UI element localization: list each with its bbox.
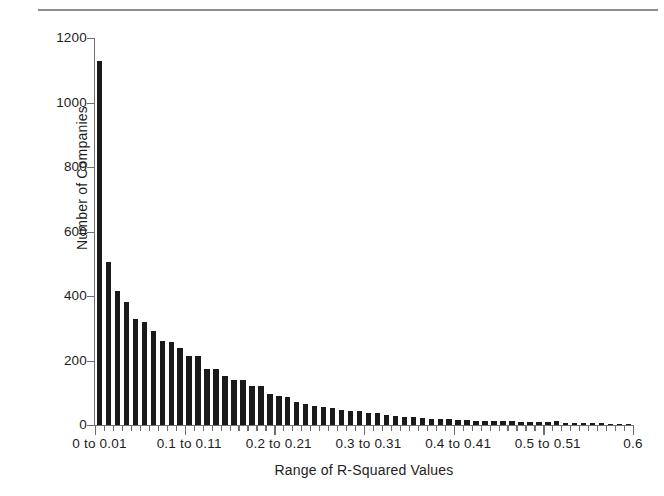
- x-axis-tick: [301, 426, 302, 431]
- x-axis-tick: [391, 426, 392, 431]
- x-axis-tick: [113, 426, 114, 431]
- x-axis-tick-label: 0.5 to 0.51: [515, 436, 581, 451]
- x-axis-tick: [131, 426, 132, 431]
- bar: [500, 421, 505, 425]
- bar: [446, 419, 451, 425]
- bar: [160, 341, 165, 425]
- y-axis-tick: [87, 361, 94, 362]
- bar: [330, 408, 335, 425]
- bar: [213, 369, 218, 425]
- x-axis-tick: [221, 426, 222, 431]
- x-axis-tick: [552, 426, 553, 431]
- x-axis-tick: [525, 426, 526, 431]
- bar: [402, 417, 407, 425]
- x-axis-tick: [283, 426, 284, 431]
- x-axis-tick: [615, 426, 616, 431]
- y-axis-tick-label-wrap: 800: [33, 159, 87, 175]
- x-axis-tick: [606, 426, 607, 431]
- bar: [590, 423, 595, 425]
- x-axis-major-tick: [633, 426, 634, 435]
- x-axis-tick: [373, 426, 374, 431]
- x-axis-tick: [472, 426, 473, 431]
- x-axis-tick: [337, 426, 338, 431]
- x-axis-major-tick: [454, 426, 455, 435]
- x-axis-tick-label: 0 to 0.01: [72, 436, 126, 451]
- bar: [348, 411, 353, 425]
- bar: [384, 415, 389, 425]
- x-axis-tick: [579, 426, 580, 431]
- x-axis-tick: [436, 426, 437, 431]
- x-axis-tick: [400, 426, 401, 431]
- x-axis-tick: [292, 426, 293, 431]
- x-axis-tick-label: 0.3 to 0.31: [335, 436, 401, 451]
- y-axis-tick-label: 800: [43, 159, 87, 174]
- y-axis-tick-label-wrap: 1000: [33, 95, 87, 111]
- x-axis-tick: [167, 426, 168, 431]
- x-axis-tick: [570, 426, 571, 431]
- bar: [473, 421, 478, 426]
- bar: [222, 376, 227, 425]
- bar: [375, 413, 380, 425]
- y-axis-tick-label-wrap: 400: [33, 288, 87, 304]
- x-axis-tick: [140, 426, 141, 431]
- x-axis-tick: [516, 426, 517, 431]
- x-axis-tick: [310, 426, 311, 431]
- x-axis-tick: [481, 426, 482, 431]
- y-axis-tick-label: 0: [43, 417, 87, 432]
- x-axis-tick: [230, 426, 231, 431]
- bar: [169, 342, 174, 425]
- x-axis-title: Range of R-Squared Values: [95, 462, 633, 478]
- bar: [482, 421, 487, 425]
- bar: [151, 331, 156, 425]
- x-axis-tick: [490, 426, 491, 431]
- bar: [115, 291, 120, 425]
- bar: [527, 422, 532, 425]
- x-axis-tick: [104, 426, 105, 431]
- bar: [366, 413, 371, 425]
- x-axis-major-tick: [543, 426, 544, 435]
- bar: [491, 421, 496, 425]
- y-axis-tick-label-wrap: 1200: [33, 30, 87, 46]
- bar: [599, 423, 604, 425]
- y-axis-title: Number of Companies: [74, 88, 90, 268]
- x-axis-tick: [588, 426, 589, 431]
- y-axis-tick-label: 400: [43, 288, 87, 303]
- x-axis-tick: [624, 426, 625, 431]
- top-horizontal-rule: [38, 9, 658, 11]
- bar: [249, 386, 254, 425]
- bar: [608, 424, 613, 425]
- x-axis-tick: [319, 426, 320, 431]
- y-axis-tick-label: 600: [43, 224, 87, 239]
- bar: [464, 420, 469, 425]
- y-axis-tick-label: 1200: [43, 30, 87, 45]
- bar: [429, 419, 434, 425]
- plot-area: [95, 38, 633, 425]
- x-axis-tick: [158, 426, 159, 431]
- bar: [142, 322, 147, 425]
- bar: [294, 402, 299, 425]
- x-axis-tick: [265, 426, 266, 431]
- x-axis-tick: [409, 426, 410, 431]
- x-axis-tick: [256, 426, 257, 431]
- x-axis-tick: [247, 426, 248, 431]
- x-axis-tick-label: 0.4 to 0.41: [425, 436, 491, 451]
- bar: [321, 407, 326, 425]
- x-axis-tick: [149, 426, 150, 431]
- x-axis-tick: [122, 426, 123, 431]
- y-axis-tick: [87, 296, 94, 297]
- x-axis-tick: [463, 426, 464, 431]
- x-axis-major-tick: [185, 426, 186, 435]
- x-axis-tick: [427, 426, 428, 431]
- y-axis-tick: [87, 425, 94, 426]
- bar: [339, 410, 344, 425]
- x-axis-tick: [203, 426, 204, 431]
- bar: [393, 416, 398, 425]
- y-axis-tick-label-wrap: 0: [33, 417, 87, 433]
- bar: [195, 356, 200, 425]
- bar: [258, 386, 263, 425]
- x-axis-tick: [418, 426, 419, 431]
- bar: [357, 411, 362, 425]
- bar: [303, 404, 308, 425]
- y-axis-tick-label-wrap: 600: [33, 224, 87, 240]
- x-axis-tick: [507, 426, 508, 431]
